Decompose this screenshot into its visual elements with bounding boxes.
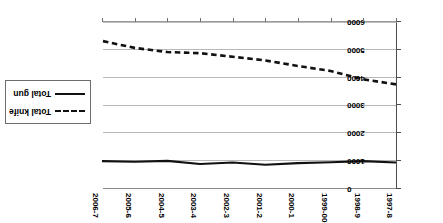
y-tick-label: 4000 [347, 74, 381, 82]
legend-swatch-dashed-icon [55, 110, 85, 112]
chart-legend: Total knife Total gun [5, 80, 91, 124]
x-tick-mark [396, 18, 397, 22]
x-tick-label: 2000-1 [288, 193, 296, 206]
x-tick-label: 2003-4 [190, 193, 198, 206]
x-tick-label: 2002-3 [222, 193, 230, 206]
x-tick-label: 2001-2 [255, 193, 263, 206]
x-tick-mark [167, 18, 168, 22]
x-tick-mark [200, 18, 201, 22]
x-tick-mark [298, 18, 299, 22]
y-tick-mark [397, 21, 401, 22]
x-tick-mark [331, 18, 332, 22]
x-tick-label: 1999-00 [320, 193, 328, 206]
y-tick-mark [397, 77, 401, 78]
x-tick-mark [265, 18, 266, 22]
y-tick-mark [397, 132, 401, 133]
y-tick-label: 5000 [347, 46, 381, 54]
legend-label-total-knife: Total knife [9, 107, 51, 117]
y-tick-mark [397, 188, 401, 189]
y-tick-mark [397, 49, 401, 50]
y-tick-label: 2000 [347, 129, 381, 137]
legend-item-total-gun: Total gun [9, 87, 85, 101]
x-tick-mark [135, 18, 136, 22]
line-chart-figure: 0100020003000400050006000 1997-81998-919… [0, 0, 443, 206]
rotated-figure-wrapper: 0100020003000400050006000 1997-81998-919… [0, 0, 443, 206]
x-tick-label: 1997-8 [386, 193, 394, 206]
x-tick-label: 1998-9 [353, 193, 361, 206]
legend-item-total-knife: Total knife [9, 105, 85, 119]
x-tick-mark [363, 18, 364, 22]
y-tick-mark [397, 105, 401, 106]
legend-swatch-solid-icon [55, 93, 85, 95]
y-tick-mark [397, 160, 401, 161]
x-tick-label: 2005-6 [124, 193, 132, 206]
x-tick-label: 2004-5 [157, 193, 165, 206]
legend-label-total-gun: Total gun [13, 89, 51, 99]
x-tick-mark [233, 18, 234, 22]
y-tick-label: 0 [347, 185, 381, 193]
x-tick-mark [102, 18, 103, 22]
y-tick-label: 3000 [347, 102, 381, 110]
x-tick-label: 2006-7 [92, 193, 100, 206]
y-tick-label: 1000 [347, 157, 381, 165]
